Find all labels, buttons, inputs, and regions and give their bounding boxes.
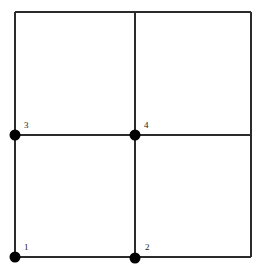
node-4-dot[interactable] xyxy=(130,130,141,141)
node-1-label: 1 xyxy=(24,243,29,252)
node-4-label: 4 xyxy=(144,121,149,130)
node-dots-group xyxy=(10,130,141,264)
node-3-dot[interactable] xyxy=(10,130,21,141)
mesh-diagram: 1234 xyxy=(0,0,263,271)
mesh-canvas xyxy=(0,0,263,271)
node-2-dot[interactable] xyxy=(130,253,141,264)
node-1-dot[interactable] xyxy=(10,252,21,263)
node-2-label: 2 xyxy=(145,243,150,252)
node-3-label: 3 xyxy=(24,121,29,130)
